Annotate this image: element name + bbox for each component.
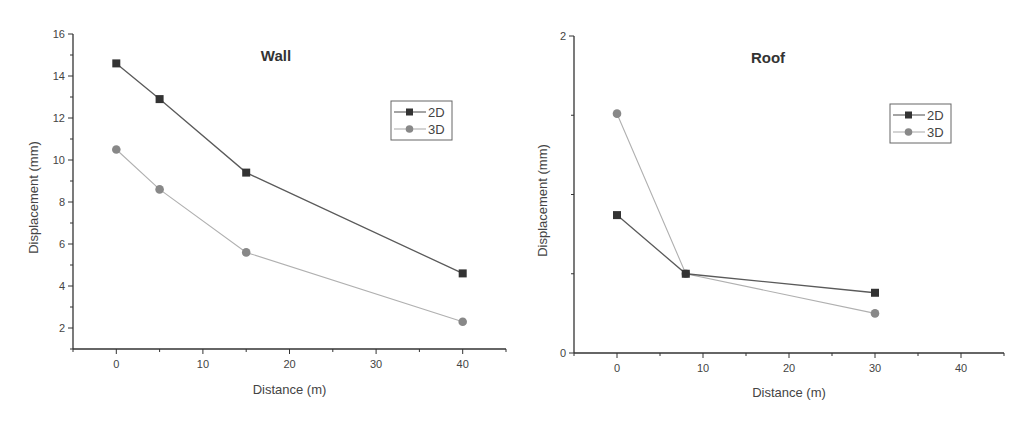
- chart-title: Roof: [751, 49, 786, 66]
- square-marker: [156, 95, 164, 103]
- x-tick-label: 0: [614, 362, 620, 374]
- legend-label: 3D: [428, 122, 445, 137]
- square-marker: [682, 270, 690, 278]
- y-tick-label: 10: [53, 154, 65, 166]
- series-3d: [112, 145, 467, 326]
- square-marker: [613, 211, 621, 219]
- x-tick-label: 10: [697, 362, 709, 374]
- legend-square-icon: [406, 109, 413, 116]
- wall-chart: 010203040246810121416Distance (m)Displac…: [26, 28, 506, 397]
- x-tick-label: 0: [113, 358, 119, 370]
- circle-marker: [112, 145, 121, 154]
- legend-square-icon: [905, 112, 912, 119]
- axes: 010203040246810121416: [53, 28, 506, 370]
- x-tick-label: 40: [955, 362, 967, 374]
- square-marker: [871, 289, 879, 297]
- y-tick-label: 14: [53, 70, 65, 82]
- square-marker: [459, 269, 467, 277]
- x-axis-label: Distance (m): [253, 382, 327, 397]
- legend-circle-icon: [905, 128, 913, 136]
- legend-circle-icon: [406, 125, 414, 133]
- circle-marker: [155, 185, 164, 194]
- legend: 2D3D: [890, 104, 951, 143]
- chart-title: Wall: [261, 47, 291, 64]
- y-tick-label: 0: [560, 347, 566, 359]
- circle-marker: [242, 248, 251, 257]
- legend: 2D3D: [391, 101, 452, 140]
- y-axis-label: Displacement (mm): [26, 141, 41, 254]
- circle-marker: [613, 109, 622, 118]
- x-tick-label: 40: [457, 358, 469, 370]
- series-line: [116, 150, 462, 322]
- y-tick-label: 16: [53, 28, 65, 40]
- legend-label: 2D: [927, 108, 944, 123]
- roof-chart: 01020304002Distance (m)Displacement (mm)…: [535, 30, 1004, 400]
- x-tick-label: 30: [869, 362, 881, 374]
- legend-label: 3D: [927, 125, 944, 140]
- series-line: [617, 215, 875, 293]
- figure: 010203040246810121416Distance (m)Displac…: [0, 0, 1028, 424]
- x-tick-label: 30: [370, 358, 382, 370]
- series-line: [116, 63, 462, 273]
- y-axis-label: Displacement (mm): [535, 144, 550, 257]
- circle-marker: [458, 317, 467, 326]
- x-tick-label: 20: [283, 358, 295, 370]
- circle-marker: [871, 309, 880, 318]
- y-tick-label: 4: [59, 280, 65, 292]
- x-tick-label: 10: [197, 358, 209, 370]
- legend-label: 2D: [428, 105, 445, 120]
- y-tick-label: 2: [560, 30, 566, 42]
- y-tick-label: 2: [59, 322, 65, 334]
- y-tick-label: 12: [53, 112, 65, 124]
- series-2d: [112, 59, 466, 277]
- square-marker: [242, 169, 250, 177]
- series-3d: [613, 109, 880, 317]
- series-line: [617, 114, 875, 314]
- y-tick-label: 6: [59, 238, 65, 250]
- y-tick-label: 8: [59, 196, 65, 208]
- square-marker: [112, 59, 120, 67]
- x-tick-label: 20: [783, 362, 795, 374]
- series-2d: [613, 211, 879, 297]
- axes: 01020304002: [560, 30, 1004, 374]
- x-axis-label: Distance (m): [752, 385, 826, 400]
